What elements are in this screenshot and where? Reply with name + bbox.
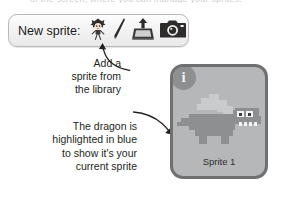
screenshot-stage: of the screen, where you can manage your… [0,0,288,199]
sprite-name-label: Sprite 1 [173,156,265,167]
callout-line: to show it's your [3,147,137,160]
upload-sprite-icon[interactable] [131,17,155,44]
sprite-library-icon[interactable] [88,17,108,45]
callout-line: The dragon is [3,120,137,133]
dragon-sprite-thumbnail [173,81,265,155]
callout-line: sprite from [8,70,121,83]
new-sprite-label: New sprite: [18,24,81,38]
truncated-top-text: of the screen, where you can manage your… [30,0,272,3]
callout-line: current sprite [3,160,137,173]
callout-line: Add a [8,57,121,70]
new-sprite-icon-row [88,17,186,45]
add-sprite-callout: Add a sprite from the library [8,57,121,97]
current-sprite-callout: The dragon is highlighted in blue to sho… [3,120,137,174]
callout-line: the library [8,83,121,96]
callout-line: highlighted in blue [3,133,137,146]
sprite-thumbnail-panel[interactable]: i [170,64,268,179]
camera-sprite-icon[interactable] [160,18,186,43]
paint-brush-icon[interactable] [113,17,126,44]
